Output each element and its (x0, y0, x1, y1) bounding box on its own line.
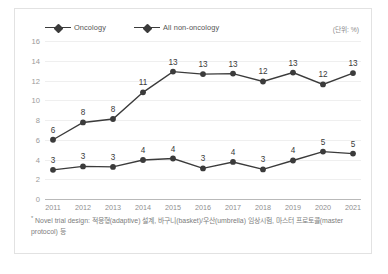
data-point-label: 13 (168, 58, 177, 67)
x-axis-tick-label: 2015 (165, 203, 181, 212)
data-point-label: 5 (351, 140, 356, 149)
y-axis-tick-label: 0 (36, 195, 40, 204)
data-point-marker[interactable] (200, 71, 206, 77)
data-point-label: 12 (258, 67, 267, 76)
x-axis-tick-label: 2017 (225, 203, 241, 212)
data-point-label: 13 (198, 60, 207, 69)
x-axis-tick-label: 2012 (75, 203, 91, 212)
footnote-marker: * (31, 215, 33, 221)
series-line (53, 72, 353, 140)
y-axis-tick-label: 12 (32, 76, 40, 85)
y-axis-tick-label: 2 (36, 175, 40, 184)
x-axis-tick-label: 2021 (345, 203, 361, 212)
legend-marker-icon (134, 23, 160, 32)
data-point-label: 4 (291, 146, 296, 155)
y-axis-tick-label: 14 (32, 56, 40, 65)
data-point-label: 4 (141, 146, 146, 155)
data-point-marker[interactable] (140, 157, 146, 163)
data-point-marker[interactable] (80, 120, 86, 126)
footnote: * Novel trial design: 적응형(adaptive) 설계, … (31, 214, 361, 238)
data-point-marker[interactable] (170, 156, 176, 162)
data-point-marker[interactable] (50, 167, 56, 173)
data-point-marker[interactable] (230, 159, 236, 165)
data-point-marker[interactable] (110, 164, 116, 170)
data-point-marker[interactable] (260, 79, 266, 85)
y-axis-tick-label: 10 (32, 96, 40, 105)
x-axis-tick-label: 2016 (195, 203, 211, 212)
legend-label-all-non-oncology: All non-oncology (163, 23, 219, 32)
data-point-marker[interactable] (200, 165, 206, 171)
chart-figure: Oncology All non-oncology (단위: %) 024681… (14, 8, 372, 254)
data-point-label: 8 (111, 105, 116, 114)
legend-item-oncology[interactable]: Oncology (45, 23, 106, 32)
x-axis-tick-label: 2013 (105, 203, 121, 212)
plot-area: 0246810121416 20112012201320142015201620… (45, 41, 361, 199)
data-point-marker[interactable] (170, 69, 176, 75)
data-point-marker[interactable] (350, 151, 356, 157)
data-point-marker[interactable] (290, 158, 296, 164)
x-axis-tick-label: 2011 (45, 203, 60, 212)
y-axis-tick-label: 8 (36, 116, 40, 125)
unit-label: (단위: %) (333, 24, 359, 34)
data-point-label: 3 (81, 152, 86, 161)
x-axis-tick-label: 2019 (285, 203, 301, 212)
data-point-marker[interactable] (320, 82, 326, 88)
footnote-text: Novel trial design: 적응형(adaptive) 설계, 바구… (31, 217, 343, 235)
data-point-marker[interactable] (320, 149, 326, 155)
data-point-marker[interactable] (50, 137, 56, 143)
data-point-label: 4 (171, 145, 176, 154)
data-point-label: 13 (288, 59, 297, 68)
data-point-label: 11 (139, 78, 148, 87)
legend-item-all-non-oncology[interactable]: All non-oncology (134, 23, 219, 32)
data-point-label: 8 (81, 108, 86, 117)
legend-marker-icon (45, 23, 71, 32)
data-point-label: 3 (261, 155, 266, 164)
y-axis-tick-label: 16 (32, 37, 40, 46)
data-point-marker[interactable] (350, 70, 356, 76)
data-point-label: 13 (228, 60, 237, 69)
x-axis-tick-label: 2018 (255, 203, 271, 212)
data-point-marker[interactable] (110, 116, 116, 122)
data-point-label: 6 (51, 126, 56, 135)
x-axis-line (45, 199, 361, 200)
data-point-label: 5 (321, 138, 326, 147)
data-point-marker[interactable] (230, 71, 236, 77)
data-point-marker[interactable] (80, 164, 86, 170)
data-point-label: 13 (348, 59, 357, 68)
x-axis-tick-label: 2014 (135, 203, 151, 212)
chart-legend: Oncology All non-oncology (45, 23, 219, 32)
data-point-marker[interactable] (260, 166, 266, 172)
y-axis-tick-label: 4 (36, 155, 40, 164)
legend-label-oncology: Oncology (74, 23, 106, 32)
data-point-marker[interactable] (140, 89, 146, 95)
data-point-label: 4 (231, 148, 236, 157)
data-point-label: 3 (111, 153, 116, 162)
data-point-label: 3 (51, 156, 56, 165)
data-point-label: 12 (318, 70, 327, 79)
data-point-marker[interactable] (290, 70, 296, 76)
data-point-label: 3 (201, 154, 206, 163)
x-axis-tick-label: 2020 (315, 203, 331, 212)
y-axis-tick-label: 6 (36, 135, 40, 144)
